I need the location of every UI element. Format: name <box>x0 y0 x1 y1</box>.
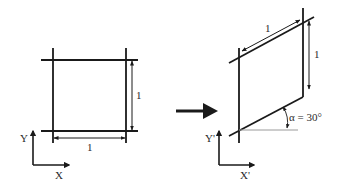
axis-x-label: X <box>55 169 63 181</box>
axes-sheared <box>219 131 254 165</box>
label-vertical-sheared: 1 <box>314 48 320 60</box>
axis-y-prime-label: Y' <box>205 132 215 144</box>
angle-label: α = 30° <box>289 111 322 123</box>
label-slanted-sheared: 1 <box>265 22 271 34</box>
shear-diagram: 1 1 Y X 1 1 α = 30° Y' X' <box>0 0 341 190</box>
axis-x-prime-label: X' <box>240 169 250 181</box>
label-horizontal-original: 1 <box>87 141 93 153</box>
axis-y-label: Y <box>20 132 28 144</box>
right-arrow-icon <box>176 103 218 119</box>
dimension-slanted-sheared <box>242 20 300 51</box>
label-vertical-original: 1 <box>136 89 142 101</box>
original-square <box>41 48 138 143</box>
axes-original <box>33 131 69 165</box>
